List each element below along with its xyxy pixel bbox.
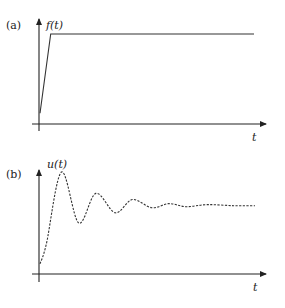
panel-label-a: (a) [6, 19, 21, 32]
curve-f [40, 34, 254, 113]
y-label-a: f(t) [45, 19, 63, 32]
figure: (a) f(t) t (b) u(t) t [0, 0, 285, 308]
curve-u [40, 172, 255, 264]
panel-label-b: (b) [6, 168, 22, 181]
x-label-b: t [253, 281, 258, 294]
x-label-a: t [252, 131, 257, 144]
y-label-b: u(t) [47, 158, 67, 171]
panel-a: (a) f(t) t [6, 19, 266, 144]
panel-b: (b) u(t) t [6, 158, 266, 294]
